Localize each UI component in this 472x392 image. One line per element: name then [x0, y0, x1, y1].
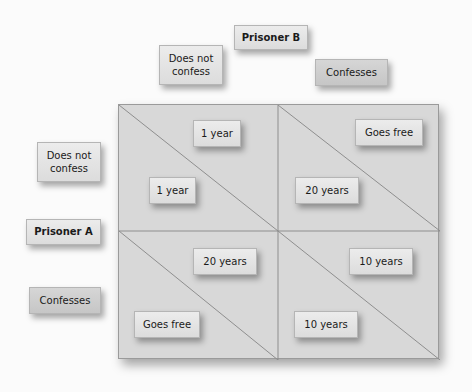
- payoff-b-nc-c: Goes free: [355, 119, 423, 146]
- payoff-a-nc-c: 20 years: [295, 177, 359, 204]
- payoff-b-c-nc: 20 years: [193, 248, 257, 275]
- payoff-a-c-c: 10 years: [294, 311, 358, 338]
- prisoner-a-label: Prisoner A: [26, 219, 101, 245]
- payoff-a-c-nc: Goes free: [134, 311, 200, 338]
- payoff-b-c-c: 10 years: [349, 248, 413, 275]
- prisoner-a-confesses: Confesses: [29, 287, 101, 314]
- payoff-b-nc-nc: 1 year: [193, 120, 241, 147]
- prisoner-b-does-not-confess: Does not confess: [159, 45, 223, 85]
- payoff-a-nc-nc: 1 year: [149, 177, 196, 204]
- prisoner-b-label: Prisoner B: [234, 25, 308, 50]
- prisoner-b-confesses: Confesses: [315, 59, 388, 86]
- prisoner-a-does-not-confess: Does not confess: [37, 142, 101, 182]
